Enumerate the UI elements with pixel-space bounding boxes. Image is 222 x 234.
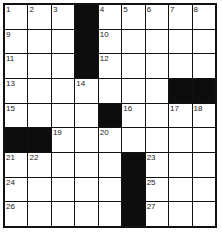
clue-number: 25 xyxy=(147,178,156,187)
grid-cell[interactable]: 13 xyxy=(5,79,27,103)
grid-cell[interactable] xyxy=(52,54,74,78)
grid-cell[interactable]: 22 xyxy=(28,153,50,177)
grid-cell[interactable] xyxy=(169,54,191,78)
grid-cell[interactable]: 20 xyxy=(99,128,121,152)
block-cell xyxy=(122,202,144,226)
grid-cell[interactable]: 16 xyxy=(122,104,144,128)
grid-cell[interactable]: 14 xyxy=(75,79,97,103)
grid-cell[interactable] xyxy=(75,128,97,152)
grid-cell[interactable]: 11 xyxy=(5,54,27,78)
clue-number: 23 xyxy=(147,153,156,162)
grid-cell[interactable] xyxy=(193,128,215,152)
grid-cell[interactable]: 7 xyxy=(169,5,191,29)
grid-cell[interactable] xyxy=(28,202,50,226)
grid-cell[interactable] xyxy=(75,153,97,177)
grid-cell[interactable] xyxy=(28,79,50,103)
grid-cell[interactable]: 4 xyxy=(99,5,121,29)
clue-number: 27 xyxy=(147,202,156,211)
grid-cell[interactable]: 27 xyxy=(146,202,168,226)
grid-cell[interactable] xyxy=(169,30,191,54)
clue-number: 17 xyxy=(170,104,179,113)
clue-number: 18 xyxy=(194,104,203,113)
block-cell xyxy=(122,153,144,177)
grid-cell[interactable] xyxy=(28,30,50,54)
grid-cell[interactable] xyxy=(193,178,215,202)
grid-cell[interactable] xyxy=(193,153,215,177)
clue-number: 6 xyxy=(147,5,151,14)
grid-cell[interactable]: 23 xyxy=(146,153,168,177)
grid-cell[interactable] xyxy=(169,178,191,202)
grid-cell[interactable]: 17 xyxy=(169,104,191,128)
grid-cell[interactable] xyxy=(99,202,121,226)
grid-cell[interactable] xyxy=(122,30,144,54)
grid-cell[interactable] xyxy=(75,202,97,226)
clue-number: 7 xyxy=(170,5,174,14)
grid-cell[interactable] xyxy=(75,104,97,128)
grid-cell[interactable]: 26 xyxy=(5,202,27,226)
grid-cell[interactable]: 12 xyxy=(99,54,121,78)
clue-number: 16 xyxy=(123,104,132,113)
clue-number: 3 xyxy=(53,5,57,14)
clue-number: 11 xyxy=(6,54,14,63)
grid-cell[interactable] xyxy=(28,54,50,78)
grid-cell[interactable] xyxy=(169,153,191,177)
grid-cell[interactable]: 2 xyxy=(28,5,50,29)
grid-cell[interactable]: 6 xyxy=(146,5,168,29)
grid-cell[interactable]: 8 xyxy=(193,5,215,29)
grid-cell[interactable] xyxy=(193,30,215,54)
grid-cell[interactable] xyxy=(99,178,121,202)
clue-number: 22 xyxy=(29,153,38,162)
grid-cell[interactable] xyxy=(52,104,74,128)
grid-cell[interactable] xyxy=(122,128,144,152)
grid-cell[interactable] xyxy=(52,30,74,54)
grid-cell[interactable] xyxy=(28,104,50,128)
grid-cell[interactable] xyxy=(169,202,191,226)
grid-cell[interactable] xyxy=(146,79,168,103)
grid-cell[interactable]: 9 xyxy=(5,30,27,54)
grid-cell[interactable] xyxy=(28,178,50,202)
clue-number: 21 xyxy=(6,153,15,162)
grid-cell[interactable]: 10 xyxy=(99,30,121,54)
clue-number: 19 xyxy=(53,128,62,137)
grid-cell[interactable] xyxy=(99,79,121,103)
grid-cell[interactable]: 19 xyxy=(52,128,74,152)
clue-number: 9 xyxy=(6,30,10,39)
clue-number: 13 xyxy=(6,79,15,88)
clue-number: 26 xyxy=(6,202,15,211)
clue-number: 2 xyxy=(29,5,33,14)
grid-cell[interactable]: 15 xyxy=(5,104,27,128)
grid-cell[interactable] xyxy=(52,153,74,177)
grid-cell[interactable]: 3 xyxy=(52,5,74,29)
grid-cell[interactable] xyxy=(193,54,215,78)
clue-number: 10 xyxy=(100,30,109,39)
grid-cell[interactable] xyxy=(99,153,121,177)
grid-cell[interactable]: 1 xyxy=(5,5,27,29)
grid-cell[interactable] xyxy=(52,202,74,226)
clue-number: 12 xyxy=(100,54,109,63)
grid-cell[interactable]: 18 xyxy=(193,104,215,128)
grid-cell[interactable] xyxy=(146,54,168,78)
clue-number: 20 xyxy=(100,128,109,137)
grid-cell[interactable]: 21 xyxy=(5,153,27,177)
grid-cell[interactable] xyxy=(193,202,215,226)
block-cell xyxy=(28,128,50,152)
grid-cell[interactable] xyxy=(122,79,144,103)
grid-cell[interactable] xyxy=(146,128,168,152)
grid-cell[interactable] xyxy=(52,79,74,103)
clue-number: 8 xyxy=(194,5,198,14)
grid-cell[interactable] xyxy=(75,178,97,202)
grid-cell[interactable] xyxy=(122,54,144,78)
grid-cell[interactable]: 5 xyxy=(122,5,144,29)
block-cell xyxy=(99,104,121,128)
grid-cell[interactable]: 25 xyxy=(146,178,168,202)
grid-cell[interactable] xyxy=(146,30,168,54)
grid-cell[interactable] xyxy=(52,178,74,202)
grid-cell[interactable] xyxy=(146,104,168,128)
grid-cell[interactable]: 24 xyxy=(5,178,27,202)
clue-number: 15 xyxy=(6,104,15,113)
grid-cell[interactable] xyxy=(169,128,191,152)
crossword-grid: 1234567891011121314151617181920212223242… xyxy=(3,3,217,228)
clue-number: 5 xyxy=(123,5,127,14)
block-cell xyxy=(75,30,97,54)
block-cell xyxy=(193,79,215,103)
